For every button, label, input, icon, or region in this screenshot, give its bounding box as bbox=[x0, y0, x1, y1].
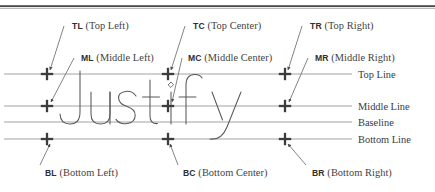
leader-line-tr bbox=[288, 26, 302, 70]
anchor-description-ml: (Middle Left) bbox=[94, 52, 154, 63]
anchor-label-ml: ML (Middle Left) bbox=[81, 53, 154, 63]
anchor-label-br: BR (Bottom Right) bbox=[312, 168, 392, 178]
leader-line-br bbox=[288, 144, 306, 165]
guide-line-label-top: Top Line bbox=[358, 70, 396, 80]
anchor-markers-group bbox=[41, 68, 291, 145]
leader-line-bl bbox=[40, 144, 50, 165]
anchor-abbr-mc: MC bbox=[188, 53, 202, 63]
anchor-label-tc: TC (Top Center) bbox=[193, 21, 261, 31]
anchor-abbr-ml: ML bbox=[81, 53, 94, 63]
leader-line-bc bbox=[170, 144, 178, 165]
anchor-marker-br[interactable] bbox=[279, 133, 291, 145]
leader-line-tc bbox=[171, 26, 185, 70]
anchor-marker-tl[interactable] bbox=[41, 68, 53, 80]
sample-word-justify bbox=[60, 71, 241, 139]
leader-line-mr bbox=[289, 58, 308, 102]
anchor-abbr-mr: MR bbox=[315, 53, 329, 63]
guide-lines-group bbox=[4, 74, 352, 139]
anchor-abbr-bc: BC bbox=[183, 168, 196, 178]
anchor-marker-bl[interactable] bbox=[41, 133, 53, 145]
leader-line-ml bbox=[51, 58, 74, 102]
leader-line-tl bbox=[50, 26, 64, 70]
typography-anchor-diagram: TL (Top Left)TC (Top Center)TR (Top Righ… bbox=[0, 0, 435, 192]
anchor-description-tl: (Top Left) bbox=[83, 20, 129, 31]
anchor-abbr-tl: TL bbox=[72, 21, 83, 31]
anchor-description-mc: (Middle Center) bbox=[202, 52, 273, 63]
anchor-label-tr: TR (Top Right) bbox=[310, 21, 374, 31]
anchor-abbr-tc: TC bbox=[193, 21, 205, 31]
anchor-marker-bc[interactable] bbox=[162, 133, 174, 145]
guide-line-label-baseline: Baseline bbox=[358, 118, 394, 128]
anchor-abbr-tr: TR bbox=[310, 21, 322, 31]
leader-line-mc bbox=[172, 58, 182, 102]
anchor-description-tr: (Top Right) bbox=[322, 20, 374, 31]
anchor-marker-tr[interactable] bbox=[279, 68, 291, 80]
anchor-label-tl: TL (Top Left) bbox=[72, 21, 129, 31]
top-border-rule bbox=[0, 5, 435, 9]
guide-line-label-bottom: Bottom Line bbox=[358, 135, 411, 145]
anchor-label-mr: MR (Middle Right) bbox=[315, 53, 395, 63]
anchor-description-bl: (Bottom Left) bbox=[57, 167, 118, 178]
anchor-description-br: (Bottom Right) bbox=[325, 167, 392, 178]
anchor-description-mr: (Middle Right) bbox=[329, 52, 395, 63]
anchor-marker-tc[interactable] bbox=[162, 68, 174, 80]
guide-line-label-middle: Middle Line bbox=[358, 102, 410, 112]
anchor-description-bc: (Bottom Center) bbox=[196, 167, 268, 178]
anchor-description-tc: (Top Center) bbox=[205, 20, 261, 31]
anchor-abbr-br: BR bbox=[312, 168, 325, 178]
anchor-abbr-bl: BL bbox=[45, 168, 57, 178]
anchor-label-bc: BC (Bottom Center) bbox=[183, 168, 268, 178]
anchor-label-mc: MC (Middle Center) bbox=[188, 53, 272, 63]
anchor-label-bl: BL (Bottom Left) bbox=[45, 168, 118, 178]
